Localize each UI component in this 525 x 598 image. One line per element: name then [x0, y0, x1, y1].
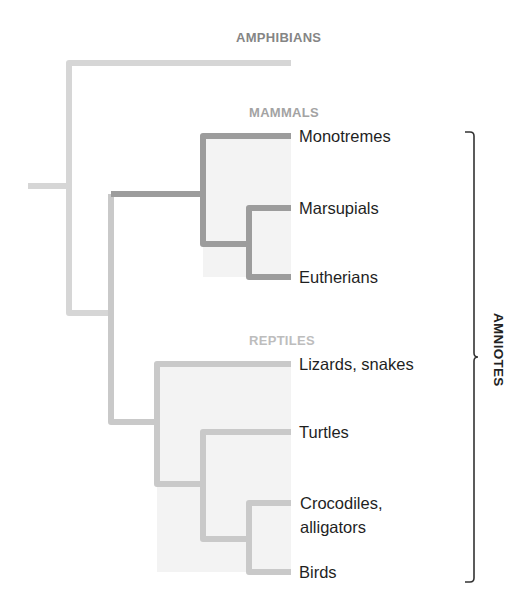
taxon-lizards-snakes: Lizards, snakes	[299, 352, 414, 376]
mammals-label: MAMMALS	[249, 105, 319, 120]
taxon-birds: Birds	[299, 560, 337, 584]
taxon-turtles: Turtles	[299, 420, 349, 444]
taxon-crocodiles-line2: alligators	[300, 515, 366, 539]
taxon-eutherians: Eutherians	[299, 265, 378, 289]
amniotes-label: AMNIOTES	[484, 313, 506, 399]
reptiles-label: REPTILES	[249, 333, 315, 348]
amphibians-label: AMPHIBIANS	[236, 30, 321, 45]
phylogenetic-tree	[0, 0, 525, 598]
taxon-marsupials: Marsupials	[299, 196, 379, 220]
taxon-monotremes: Monotremes	[299, 124, 391, 148]
amniotes-bracket	[465, 132, 478, 582]
amniote-branch	[111, 194, 157, 422]
taxon-crocodiles-line1: Crocodiles,	[300, 491, 383, 515]
